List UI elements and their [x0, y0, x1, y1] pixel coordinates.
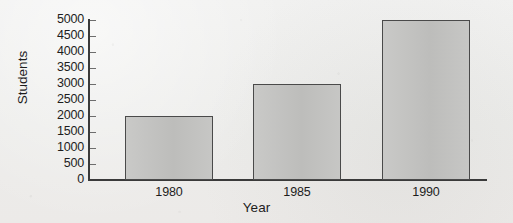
y-axis-tick-label-text: 0 [40, 173, 84, 185]
y-axis-tick-label-text: 4000 [40, 45, 84, 57]
bar-1980 [125, 116, 213, 180]
y-axis-tick-mark [90, 116, 96, 117]
y-axis-tick-mark [90, 36, 96, 37]
y-axis-tick-label-text: 5000 [40, 13, 84, 25]
y-axis-tick-mark [90, 84, 96, 85]
y-axis-tick-label-text: 3000 [40, 77, 84, 89]
y-axis-title: Students [15, 38, 30, 118]
bar-1990 [382, 20, 470, 180]
y-axis-tick-mark [90, 68, 96, 69]
x-axis-tick-label-1980: 1980 [125, 185, 213, 199]
y-axis-line [88, 19, 90, 181]
y-axis-tick-mark [90, 164, 96, 165]
y-axis-tick-label-text: 4500 [40, 29, 84, 41]
y-axis-tick-label-text: 2500 [40, 93, 84, 105]
x-axis-tick-label-1990: 1990 [382, 185, 470, 199]
y-axis-tick-label-text: 2000 [40, 109, 84, 121]
y-axis-tick-mark [90, 20, 96, 21]
y-axis-tick-mark [90, 52, 96, 53]
x-axis-title: Year [0, 200, 513, 215]
y-axis-tick-label-text: 1000 [40, 141, 84, 153]
y-axis-tick-label-text: 3500 [40, 61, 84, 73]
bar-chart-figure: Students 5000450040003500300025002000150… [0, 0, 513, 223]
bar-1985 [253, 84, 341, 180]
y-axis-tick-label-text: 500 [40, 157, 84, 169]
x-axis-tick-label-1985: 1985 [253, 185, 341, 199]
y-axis-tick-mark [90, 100, 96, 101]
y-axis-tick-mark [90, 132, 96, 133]
y-axis-tick-label-text: 1500 [40, 125, 84, 137]
y-axis-tick-mark [90, 148, 96, 149]
